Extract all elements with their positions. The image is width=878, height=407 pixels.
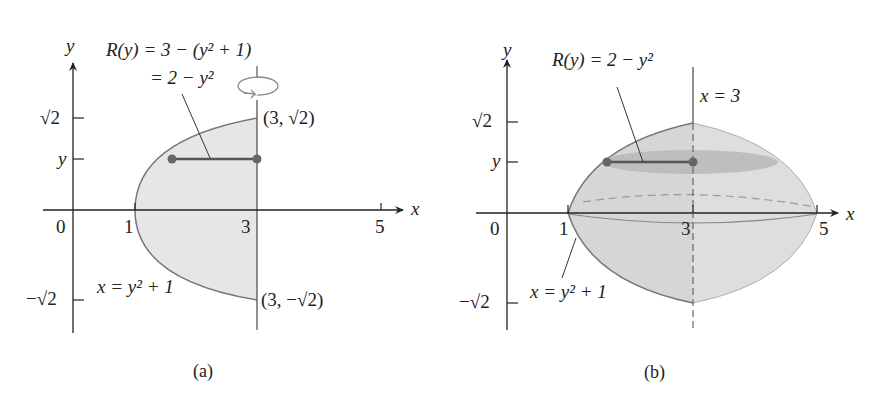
x-tick-1-b: 1: [559, 219, 569, 238]
caption-a: (a): [193, 362, 213, 380]
caption-b: (b): [644, 363, 665, 381]
axis-of-rotation-label: x = 3: [700, 86, 740, 105]
radius-label-line1: R(y) = 3 − (y² + 1): [106, 40, 251, 59]
radius-endpoint-left: [168, 155, 177, 164]
x-tick-1: 1: [124, 217, 134, 236]
curve-label-b: x = y² + 1: [530, 282, 607, 301]
x-tick-5-b: 5: [819, 219, 829, 238]
y-axis-label: y: [66, 36, 74, 55]
region-shaded: [135, 118, 257, 300]
y-tick-sqrt2: √2: [40, 108, 60, 127]
x-tick-5: 5: [375, 217, 385, 236]
point-bottom-label: (3, −√2): [261, 290, 323, 309]
curve-label: x = y² + 1: [97, 277, 174, 296]
x-axis-label: x: [411, 199, 419, 218]
x-tick-3: 3: [241, 217, 251, 236]
rotation-arrow-icon: [238, 77, 278, 98]
y-tick-neg-sqrt2-b: −√2: [459, 292, 490, 311]
figure-canvas: [0, 0, 878, 407]
x-tick-0: 0: [56, 217, 66, 236]
y-axis-label-b: y: [503, 40, 511, 59]
y-tick-y-b: y: [492, 151, 500, 170]
radius-label-b: R(y) = 2 − y²: [552, 50, 653, 69]
y-tick-sqrt2-b: √2: [472, 111, 492, 130]
radius-endpoint-right: [253, 155, 262, 164]
x-axis-label-b: x: [846, 204, 854, 223]
x-tick-3-b: 3: [681, 219, 691, 238]
x-tick-0-b: 0: [490, 219, 500, 238]
y-tick-y: y: [58, 149, 66, 168]
y-tick-neg-sqrt2: −√2: [26, 289, 57, 308]
point-top-label: (3, √2): [263, 108, 315, 127]
radius-label-line2: = 2 − y²: [150, 68, 214, 87]
